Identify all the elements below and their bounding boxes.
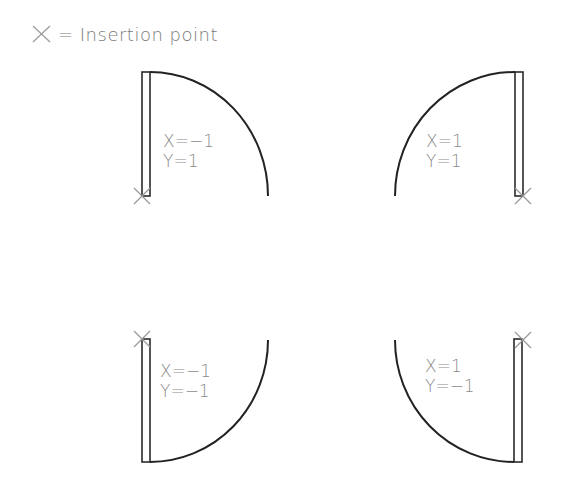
door-leaf xyxy=(142,339,150,462)
insertion-point-icon xyxy=(515,332,531,348)
door-bottom-right: X=1 Y=−1 xyxy=(395,332,531,462)
door-insertion-diagram: = Insertion point X=−1 Y=1 X=1 Y=1 X=−1 … xyxy=(0,0,579,484)
legend-text: = Insertion point xyxy=(58,24,218,45)
x-scale-label: X=−1 xyxy=(160,361,211,381)
y-scale-label: Y=−1 xyxy=(425,376,475,396)
insertion-point-symbol-icon xyxy=(33,26,50,42)
door-leaf xyxy=(514,339,522,462)
door-bottom-left: X=−1 Y=−1 xyxy=(134,331,268,462)
door-top-left: X=−1 Y=1 xyxy=(134,72,268,204)
y-scale-label: Y=1 xyxy=(426,151,461,171)
door-leaf xyxy=(515,72,523,196)
door-top-right: X=1 Y=1 xyxy=(395,72,531,204)
door-leaf xyxy=(142,72,150,196)
x-scale-label: X=−1 xyxy=(163,131,214,151)
x-scale-label: X=1 xyxy=(425,356,462,376)
legend: = Insertion point xyxy=(33,24,218,45)
door-swing-arc xyxy=(150,340,268,462)
y-scale-label: Y=1 xyxy=(163,151,198,171)
x-scale-label: X=1 xyxy=(426,131,463,151)
y-scale-label: Y=−1 xyxy=(160,381,210,401)
